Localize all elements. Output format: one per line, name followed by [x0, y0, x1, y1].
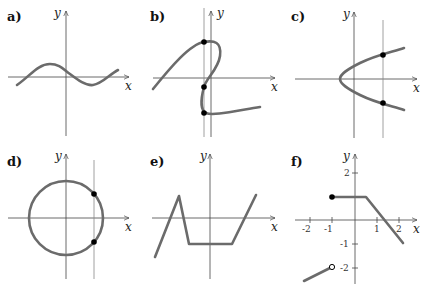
panel-label: e)	[150, 154, 164, 169]
panel-c: c) x y	[291, 7, 420, 138]
x-ticks: -2 -1 1 2	[302, 217, 402, 234]
panel-label: a)	[7, 9, 22, 24]
y-axis-label: y	[342, 149, 350, 163]
panel-label: c)	[291, 9, 305, 24]
x-axis-label: x	[413, 81, 420, 95]
figure: a) x y b) x y c) x y d) x y	[0, 0, 424, 290]
x-tick-label: -1	[324, 224, 333, 234]
y-axis-label: y	[216, 6, 224, 20]
x-axis-label: x	[413, 222, 420, 236]
y-tick-label: -2	[340, 263, 349, 273]
panel-f: f) x y -2 -1 1 2 2 -1 -2	[291, 149, 420, 284]
intersection-dot	[380, 52, 386, 58]
y-axis-label: y	[54, 149, 62, 163]
y-axis-label: y	[199, 149, 207, 163]
panel-label: b)	[150, 9, 165, 24]
x-tick-label: 2	[396, 224, 402, 234]
x-axis-label: x	[271, 220, 278, 234]
curve-lower	[304, 268, 330, 281]
curve	[17, 64, 118, 85]
y-tick-label: 2	[344, 168, 350, 178]
y-axis-label: y	[342, 7, 350, 21]
panel-d: d) x y	[7, 149, 132, 279]
panel-label: f)	[291, 154, 303, 169]
intersection-dot	[91, 191, 97, 197]
intersection-dot	[91, 239, 97, 245]
panel-b: b) x y	[150, 6, 278, 137]
open-endpoint-dot	[329, 264, 334, 269]
curve	[155, 195, 256, 257]
x-axis-label: x	[125, 220, 132, 234]
x-axis-label: x	[125, 79, 132, 93]
panel-a: a) x y	[7, 6, 132, 136]
closed-endpoint-dot	[329, 194, 335, 200]
y-tick-label: -1	[340, 239, 349, 249]
x-tick-label: -2	[302, 224, 311, 234]
x-tick-label: 1	[374, 224, 380, 234]
panel-label: d)	[7, 154, 22, 169]
panel-e: e) x y	[150, 149, 278, 279]
intersection-dot	[201, 84, 207, 90]
y-axis-label: y	[53, 6, 61, 20]
intersection-dot	[201, 39, 207, 45]
intersection-dot	[201, 110, 207, 116]
x-axis-label: x	[271, 80, 278, 94]
intersection-dot	[380, 100, 386, 106]
